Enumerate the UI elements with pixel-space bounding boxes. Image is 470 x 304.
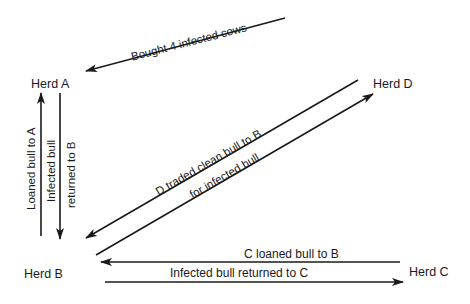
label-loaned-bull-to-a: Loaned bull to A <box>26 128 38 211</box>
label-infected-bull-returned-to-c: Infected bull returned to C <box>170 267 308 279</box>
node-herd-b: Herd B <box>24 268 63 281</box>
node-herd-a: Herd A <box>31 78 69 91</box>
node-herd-c: Herd C <box>409 266 449 279</box>
label-c-loaned-bull-to-b: C loaned bull to B <box>244 248 339 260</box>
node-herd-d: Herd D <box>373 78 413 91</box>
label-infected-bull: Infected bull <box>46 140 58 202</box>
label-returned-to-b: returned to B <box>66 142 78 208</box>
